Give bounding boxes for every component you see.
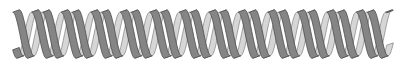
helix-front-strands (13, 10, 394, 58)
double-helix-graphic (0, 0, 405, 70)
